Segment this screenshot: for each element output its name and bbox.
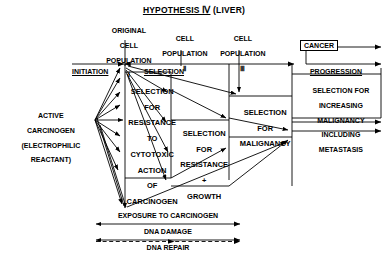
source-line2: CARCINOGEN [27,127,75,134]
col3-line3: MALIGNANCY [240,139,291,148]
col1-line7: OF [147,181,157,190]
column-selection-resistance-growth: SELECTION FOR RESISTANCE + GROWTH [172,122,228,209]
col2-line5: GROWTH [187,192,221,201]
cancer-label: CANCER [304,42,334,49]
stage-cell-population-iii: CELL POPULATION Ⅲ [212,28,265,79]
col4-line1: SELECTION FOR [313,87,370,94]
timeline-label-exposure-to-carcinogen: EXPOSURE TO CARCINOGEN [118,212,218,219]
phase-progression: PROGRESSION [310,68,362,75]
col1-line2: FOR [144,103,160,112]
col1-line3: RESISTANCE [128,118,176,127]
col1-line6: ACTION [138,166,167,175]
hypothesis-iv-liver-diagram: HYPOTHESIS Ⅳ (LIVER) ORIGINAL CELL POPUL… [0,0,388,262]
phase-selection: SELECTION [144,68,184,75]
page-title: HYPOTHESIS Ⅳ (LIVER) [143,6,245,15]
phase-initiation: INITIATION [72,68,108,75]
col4-line4: INCLUDING [321,131,360,138]
col4-line2: INCREASING [319,102,363,109]
col2-line4: + [202,176,206,185]
original-line3: POPULATION [106,57,151,64]
stage-original-cell-population: ORIGINAL CELL POPULATION Ⅰ [98,20,151,86]
pop2-line1: CELL [176,35,194,42]
timeline-label-dna-damage: DNA DAMAGE [144,228,192,235]
pop2-line2: POPULATION [162,50,207,57]
original-line1: ORIGINAL [112,27,146,34]
pop3-line1: CELL [234,35,252,42]
original-line2: CELL [120,42,138,49]
source-line3: (ELECTROPHILIC [22,142,81,149]
col2-line2: FOR [196,145,212,154]
cancer-box: CANCER [300,40,338,51]
timeline-label-dna-repair: DNA REPAIR [147,244,190,251]
column-selection-malignancy: SELECTION FOR MALIGNANCY [231,101,290,156]
active-carcinogen-node: ACTIVE CARCINOGEN (ELECTROPHILIC REACTAN… [14,105,81,171]
col4-line3: MALIGNANCY [317,117,364,124]
col3-line2: FOR [257,124,273,133]
pop3-line2: POPULATION [220,50,265,57]
column-selection-resistance-cytotoxic: SELECTION FOR RESISTANCE TO CYTOTOXIC AC… [118,80,178,214]
original-numeral: Ⅰ [128,71,130,78]
pop3-numeral: Ⅲ [240,65,245,72]
col1-line5: CYTOTOXIC [130,150,173,159]
source-line1: ACTIVE [38,112,64,119]
col2-line3: RESISTANCE [180,160,228,169]
title-underlined: HYPOTHESIS Ⅳ [143,5,211,15]
col3-line1: SELECTION [244,108,287,117]
col2-line1: SELECTION [183,129,226,138]
col1-line8: CARCINOGEN [127,197,178,206]
col1-line4: TO [147,134,157,143]
column-selection-increasing-malignancy: SELECTION FOR INCREASING MALIGNANCY INCL… [305,80,370,161]
col4-line5: METASTASIS [319,146,363,153]
title-suffix: (LIVER) [210,5,245,15]
col1-line1: SELECTION [131,87,174,96]
source-line4: REACTANT) [31,156,71,163]
